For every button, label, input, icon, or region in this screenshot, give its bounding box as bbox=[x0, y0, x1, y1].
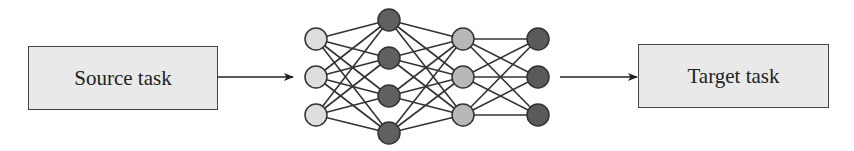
network-node-layer-3 bbox=[452, 104, 474, 126]
target-task-box: Target task bbox=[638, 44, 829, 108]
network-edges bbox=[316, 20, 538, 133]
network-node-layer-1 bbox=[305, 28, 327, 50]
network-node-layer-2 bbox=[378, 47, 400, 69]
network-node-layer-4 bbox=[527, 28, 549, 50]
network-node-layer-4 bbox=[527, 104, 549, 126]
network-node-layer-2 bbox=[378, 85, 400, 107]
target-task-label: Target task bbox=[687, 64, 779, 89]
network-node-layer-2 bbox=[378, 122, 400, 144]
network-node-layer-3 bbox=[452, 28, 474, 50]
network-node-layer-1 bbox=[305, 104, 327, 126]
network-node-layer-3 bbox=[452, 66, 474, 88]
network-node-layer-4 bbox=[527, 66, 549, 88]
network-node-layer-1 bbox=[305, 66, 327, 88]
network-node-layer-2 bbox=[378, 9, 400, 31]
